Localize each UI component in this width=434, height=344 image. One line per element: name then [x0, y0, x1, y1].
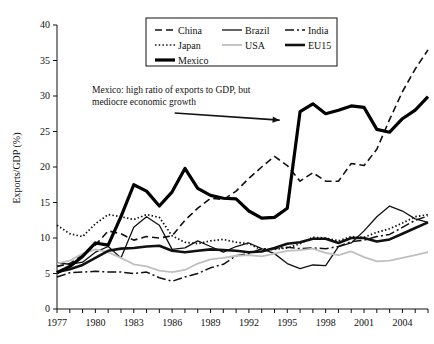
y-tick-label: 15: [40, 197, 50, 208]
y-tick-label: 0: [45, 303, 50, 314]
legend-label-eu15: EU15: [308, 40, 331, 51]
legend-label-japan: Japan: [178, 40, 201, 51]
y-axis-label-text: Exports/GDP (%): [11, 132, 23, 203]
x-tick-label: 1983: [124, 317, 144, 328]
y-tick-label: 10: [40, 232, 50, 243]
x-tick-label: 2004: [392, 317, 412, 328]
x-tick-label: 1989: [201, 317, 221, 328]
y-tick-label: 20: [40, 161, 50, 172]
y-tick-label: 35: [40, 55, 50, 66]
annotation-line-2: mediocre economic growth: [92, 97, 196, 107]
chart-container: Exports/GDP (%) 0510152025303540 1977198…: [0, 0, 434, 344]
x-tick-label: 1995: [277, 317, 297, 328]
x-tick-label: 1977: [47, 317, 67, 328]
x-tick-label: 1986: [162, 317, 182, 328]
x-tick-label: 2001: [354, 317, 374, 328]
x-tick-label: 1980: [85, 317, 105, 328]
y-axis-label: Exports/GDP (%): [11, 132, 23, 203]
legend-label-china: China: [178, 25, 202, 36]
x-tick-label: 1998: [316, 317, 336, 328]
legend-label-usa: USA: [245, 40, 266, 51]
y-tick-label: 40: [40, 19, 50, 30]
legend-label-mexico: Mexico: [178, 55, 209, 66]
y-tick-label: 5: [45, 268, 50, 279]
x-tick-label: 1992: [239, 317, 259, 328]
y-tick-label: 25: [40, 126, 50, 137]
chart-legend: ChinaBrazilIndiaJapanUSAEU15Mexico: [146, 18, 337, 66]
legend-label-india: India: [308, 25, 329, 36]
annotation-line-1: Mexico: high ratio of exports to GDP, bu…: [92, 85, 251, 95]
exports-gdp-line-chart: Exports/GDP (%) 0510152025303540 1977198…: [0, 0, 434, 344]
legend-label-brazil: Brazil: [245, 25, 270, 36]
y-tick-label: 30: [40, 90, 50, 101]
